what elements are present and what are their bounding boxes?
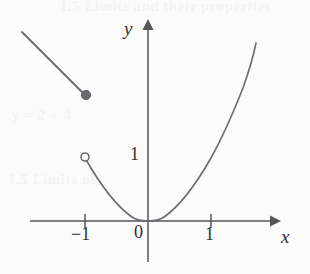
x-axis-arrowhead <box>270 216 281 227</box>
x-tick-label-neg1: −1 <box>71 224 90 245</box>
x-tick-label-1: 1 <box>205 224 214 245</box>
origin-label: 0 <box>134 222 143 243</box>
coordinate-plot <box>0 0 310 274</box>
y-axis-label: y <box>124 18 132 40</box>
open-endpoint-circle <box>81 153 89 161</box>
graph-figure: 1.5 Limits and their properties y = 2 + … <box>0 0 310 274</box>
line-segment-series <box>22 32 85 95</box>
closed-endpoint-dot <box>81 90 90 99</box>
x-axis-label: x <box>281 226 289 248</box>
y-axis-arrowhead <box>143 19 154 30</box>
parabola-series <box>85 43 256 221</box>
y-tick-label-1: 1 <box>130 144 139 165</box>
